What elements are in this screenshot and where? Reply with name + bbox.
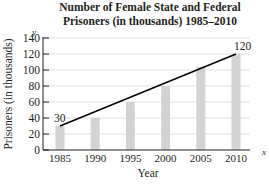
y-tick-label: 120 (23, 48, 41, 60)
annotation-30: 30 (54, 112, 66, 124)
bar-2005 (196, 67, 205, 150)
x-variable-label: x (261, 147, 266, 157)
x-tick-label: 1990 (84, 152, 107, 164)
annotation-120: 120 (234, 40, 252, 52)
bar-2000 (161, 86, 170, 150)
bar-1990 (91, 118, 100, 150)
bar-1985 (56, 126, 65, 150)
bar-chart: 0204060801001201401985199019952000200520… (0, 0, 269, 184)
y-tick-label: 80 (29, 80, 41, 92)
bar-2010 (232, 54, 241, 150)
trend-line (60, 54, 236, 126)
y-tick-label: 0 (34, 144, 40, 156)
y-axis-label: Prisoners (in thousands) (2, 34, 14, 154)
x-tick-label: 1985 (49, 152, 72, 164)
x-tick-label: 1995 (119, 152, 142, 164)
x-tick-label: 2010 (225, 152, 248, 164)
y-tick-label: 60 (29, 96, 41, 108)
bar-1995 (126, 102, 135, 150)
y-variable-label: y (31, 27, 36, 37)
y-tick-label: 40 (29, 112, 41, 124)
x-axis-label: Year (118, 167, 178, 179)
y-tick-label: 20 (29, 128, 41, 140)
y-tick-label: 100 (23, 64, 41, 76)
x-tick-label: 2005 (190, 152, 213, 164)
x-tick-label: 2000 (155, 152, 178, 164)
